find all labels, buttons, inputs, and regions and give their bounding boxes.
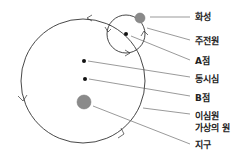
label-mars: 화성	[195, 12, 211, 22]
label-earth: 지구	[195, 140, 211, 150]
label-equant: 동시심	[195, 74, 219, 84]
epicycle-arrow-icon	[105, 27, 148, 56]
a-point	[124, 32, 128, 36]
deferent-circle	[21, 19, 145, 143]
equant-point	[82, 59, 86, 63]
leader-lines	[88, 17, 190, 144]
label-deferent-sub: 가상의 원	[195, 123, 230, 133]
mars-planet	[135, 13, 145, 23]
earth-planet	[77, 95, 91, 109]
label-b-point: B점	[195, 93, 210, 103]
label-deferent: 이심원	[195, 111, 219, 121]
label-a-point: A점	[195, 56, 210, 66]
b-point	[83, 77, 87, 81]
label-epicycle: 주전원	[195, 36, 219, 46]
